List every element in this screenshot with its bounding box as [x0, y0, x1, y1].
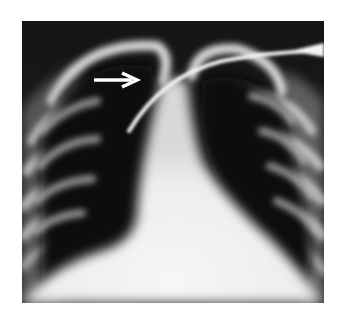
- xray-figure: [22, 21, 324, 303]
- chest-xray-image: [22, 21, 324, 303]
